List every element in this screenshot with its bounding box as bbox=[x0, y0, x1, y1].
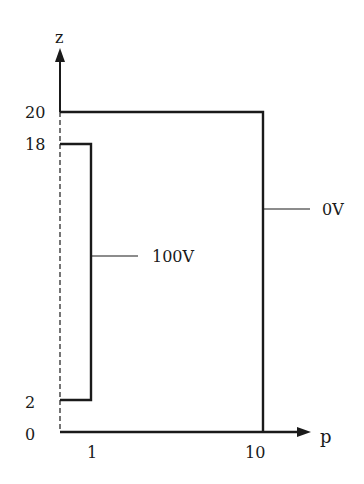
inner-electrode-label: 100V bbox=[152, 249, 194, 265]
z-tick-0: 0 bbox=[25, 427, 35, 443]
p-tick-1: 1 bbox=[87, 445, 97, 461]
z-tick-2: 2 bbox=[25, 395, 35, 411]
p-tick-10: 10 bbox=[245, 445, 265, 461]
outer-electrode-label: 0V bbox=[322, 202, 344, 218]
diagram-canvas bbox=[0, 0, 364, 484]
z-tick-20: 20 bbox=[25, 105, 45, 121]
z-axis-label: z bbox=[55, 30, 63, 46]
p-axis-label: p bbox=[320, 428, 332, 446]
z-axis-arrow-icon bbox=[55, 48, 65, 62]
z-tick-18: 18 bbox=[25, 137, 45, 153]
p-axis-arrow-icon bbox=[297, 427, 311, 437]
inner-electrode bbox=[60, 144, 91, 400]
